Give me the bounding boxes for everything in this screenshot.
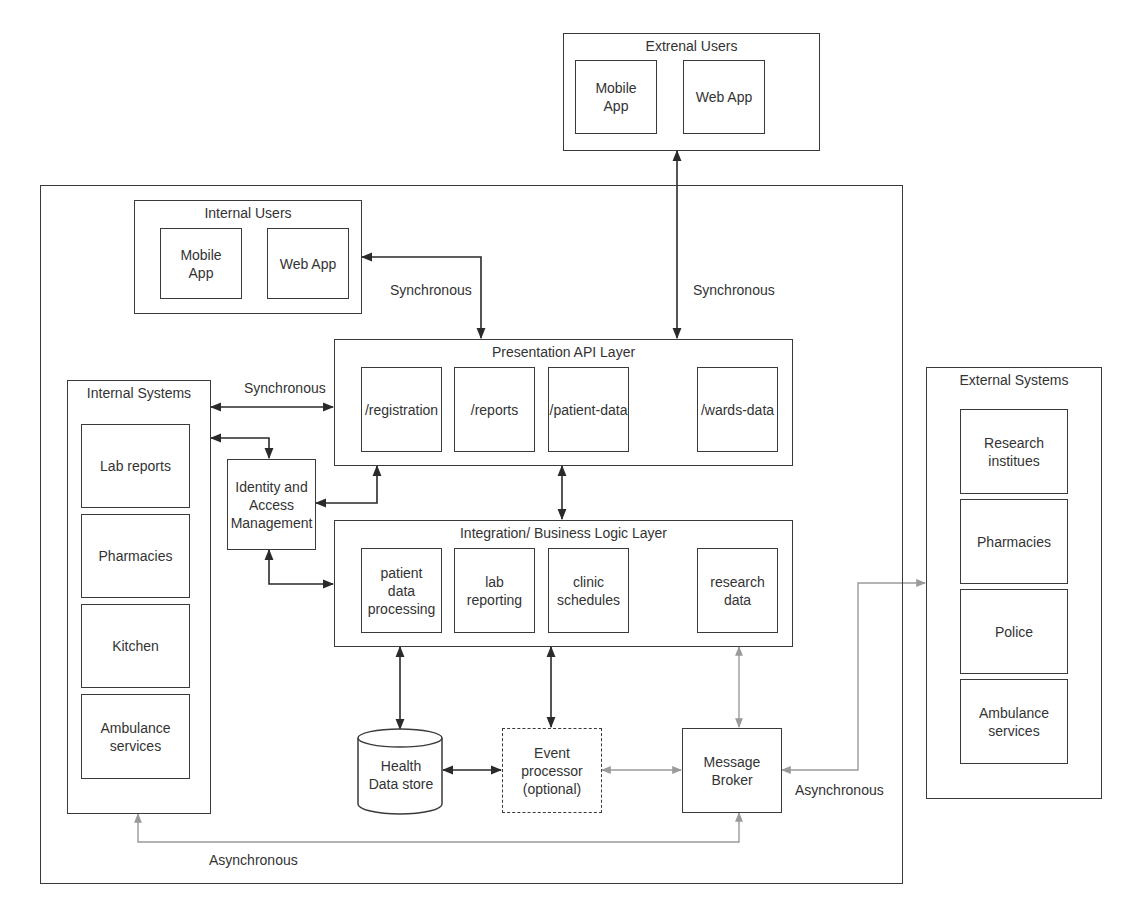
internal-systems-async-label: Asynchronous	[209, 852, 298, 868]
patient-data-endpoint-box[interactable]: /patient-data	[548, 367, 629, 452]
internal-pharmacies-box[interactable]: Pharmacies	[81, 514, 190, 598]
reports-endpoint-box[interactable]: /reports	[454, 367, 535, 452]
external-police-box[interactable]: Police	[960, 589, 1068, 674]
registration-endpoint-box[interactable]: /registration	[361, 367, 442, 452]
identity-access-management-box[interactable]: Identity and Access Management	[227, 459, 316, 550]
internal-web-app-box[interactable]: Web App	[267, 228, 349, 299]
internal-users-title: Internal Users	[135, 205, 361, 221]
internal-systems-sync-label: Synchronous	[244, 380, 326, 396]
research-data-box[interactable]: research data	[697, 548, 778, 633]
internal-mobile-app-box[interactable]: Mobile App	[160, 228, 242, 299]
wards-data-endpoint-box[interactable]: /wards-data	[697, 367, 778, 452]
health-data-store-label: Health Data store	[358, 745, 444, 805]
external-users-sync-label: Synchronous	[693, 282, 775, 298]
external-systems-title: External Systems	[927, 372, 1101, 388]
patient-data-processing-box[interactable]: patient data processing	[361, 548, 442, 633]
internal-systems-title: Internal Systems	[68, 385, 210, 401]
external-pharmacies-box[interactable]: Pharmacies	[960, 499, 1068, 584]
integration-layer-title: Integration/ Business Logic Layer	[335, 525, 792, 541]
external-users-title: Extrenal Users	[564, 38, 819, 54]
external-mobile-app-box[interactable]: Mobile App	[575, 60, 657, 134]
external-systems-async-label: Asynchronous	[795, 782, 884, 798]
internal-ambulance-services-box[interactable]: Ambulance services	[81, 694, 190, 779]
internal-lab-reports-box[interactable]: Lab reports	[81, 424, 190, 508]
event-processor-box[interactable]: Event processor (optional)	[502, 728, 602, 813]
internal-users-sync-label: Synchronous	[390, 282, 472, 298]
lab-reporting-box[interactable]: lab reporting	[454, 548, 535, 633]
presentation-layer-title: Presentation API Layer	[335, 344, 792, 360]
external-ambulance-services-box[interactable]: Ambulance services	[960, 679, 1068, 764]
message-broker-box[interactable]: Message Broker	[682, 728, 782, 813]
clinic-schedules-box[interactable]: clinic schedules	[548, 548, 629, 633]
external-research-institutes-box[interactable]: Research institues	[960, 409, 1068, 494]
external-web-app-box[interactable]: Web App	[683, 60, 765, 134]
internal-kitchen-box[interactable]: Kitchen	[81, 604, 190, 688]
